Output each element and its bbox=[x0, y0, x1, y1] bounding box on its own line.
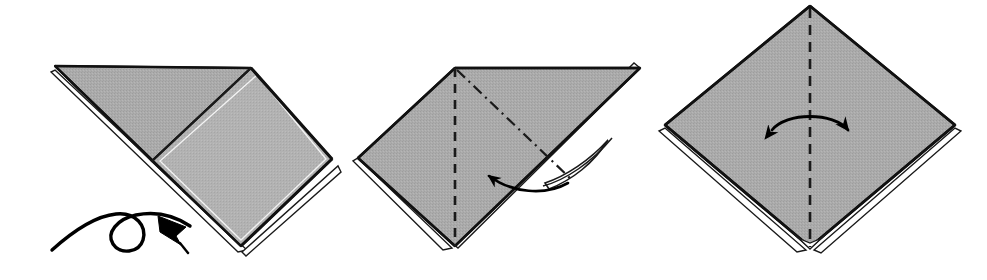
diagram-canvas: Step 1 Folded kite shape with a square f… bbox=[0, 0, 987, 280]
origami-diagram-page: Step 1 Folded kite shape with a square f… bbox=[0, 0, 987, 280]
